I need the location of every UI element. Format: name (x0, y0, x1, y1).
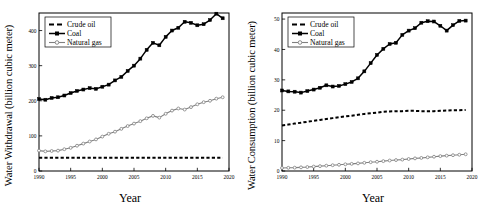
data-point-marker (369, 62, 372, 65)
data-point-marker (114, 79, 117, 82)
data-point-marker (120, 75, 123, 78)
line-chart-right: 199019952000200520102015202001020304050C… (261, 0, 485, 211)
data-point-marker (82, 88, 85, 91)
data-point-marker (388, 159, 391, 162)
data-point-marker (38, 149, 41, 152)
data-point-marker (293, 90, 296, 93)
y-tick-label: 0 (34, 168, 37, 174)
data-point-marker (177, 107, 180, 110)
data-point-marker (82, 142, 85, 145)
data-point-marker (420, 156, 423, 159)
data-point-marker (357, 162, 360, 165)
data-point-marker (312, 88, 315, 91)
data-point-marker (221, 96, 224, 99)
data-point-marker (331, 85, 334, 88)
data-point-marker (382, 47, 385, 50)
data-point-marker (293, 166, 296, 169)
data-point-marker (57, 96, 60, 99)
data-point-marker (445, 29, 448, 32)
legend-label: Natural gas (67, 38, 102, 47)
data-point-marker (50, 96, 53, 99)
series-line-natural-gas (39, 97, 223, 151)
data-point-marker (177, 26, 180, 29)
data-point-marker (107, 83, 110, 86)
data-point-marker (407, 29, 410, 32)
data-point-marker (139, 57, 142, 60)
data-point-marker (439, 155, 442, 158)
data-point-marker (338, 84, 341, 87)
data-point-marker (215, 97, 218, 100)
data-point-marker (44, 150, 47, 153)
x-axis-title-right: Year (261, 191, 485, 211)
data-point-marker (120, 127, 123, 130)
x-tick-label: 2020 (224, 174, 235, 180)
data-point-marker (350, 80, 353, 83)
data-point-marker (300, 91, 303, 94)
legend-label: Crude oil (67, 20, 95, 29)
data-point-marker (439, 24, 442, 27)
data-point-marker (114, 130, 117, 133)
data-point-marker (126, 125, 129, 128)
y-axis-title-left: Water Withdrawal (billion cubic meter) (0, 0, 18, 211)
data-point-marker (133, 64, 136, 67)
legend-label: Coal (67, 29, 81, 38)
y-tick-label: 300 (28, 63, 36, 69)
x-tick-label: 1995 (65, 174, 76, 180)
legend-label: Crude oil (310, 20, 338, 29)
data-point-marker (202, 23, 205, 26)
data-point-marker (101, 135, 104, 138)
data-point-marker (319, 165, 322, 168)
x-tick-label: 2015 (192, 174, 203, 180)
data-point-marker (414, 27, 417, 30)
data-point-marker (202, 101, 205, 104)
data-point-marker (190, 106, 193, 109)
data-point-marker (133, 122, 136, 125)
data-point-marker (63, 148, 66, 151)
data-point-marker (38, 98, 41, 101)
data-point-marker (433, 155, 436, 158)
data-point-marker (69, 146, 72, 149)
data-point-marker (145, 117, 148, 120)
data-point-marker (209, 99, 212, 102)
y-tick-label: 400 (28, 28, 36, 34)
y-tick-label: 30 (274, 77, 280, 83)
data-point-marker (44, 98, 47, 101)
y-tick-label: 50 (274, 16, 280, 22)
data-point-marker (369, 161, 372, 164)
chart-panel-water-withdrawal: Water Withdrawal (billion cubic meter) 1… (0, 0, 242, 211)
x-tick-label: 2015 (435, 174, 446, 180)
legend-label: Coal (310, 29, 324, 38)
data-point-marker (139, 120, 142, 123)
data-point-marker (363, 161, 366, 164)
data-point-marker (306, 166, 309, 169)
data-point-marker (190, 21, 193, 24)
plot-area-right: 199019952000200520102015202001020304050C… (261, 0, 485, 211)
data-point-marker (63, 94, 66, 97)
data-point-marker (414, 157, 417, 160)
x-tick-label: 2000 (340, 174, 351, 180)
y-tick-label: 200 (28, 98, 36, 104)
line-chart-left: 1990199520002005201020152020010020030040… (18, 0, 242, 211)
legend: Crude oilCoalNatural gas (45, 17, 111, 47)
data-point-marker (281, 89, 284, 92)
data-point-marker (88, 140, 91, 143)
data-point-marker (95, 138, 98, 141)
chart-panel-water-consumption: Water Consumption (billion cubic meter) … (243, 0, 485, 211)
legend-marker (298, 32, 302, 36)
data-point-marker (306, 90, 309, 93)
legend-label: Natural gas (310, 38, 345, 47)
data-point-marker (69, 92, 72, 95)
data-point-marker (76, 144, 79, 147)
data-point-marker (171, 29, 174, 32)
data-point-marker (445, 154, 448, 157)
data-point-marker (57, 149, 60, 152)
data-point-marker (287, 90, 290, 93)
data-point-marker (183, 108, 186, 111)
data-point-marker (158, 116, 161, 119)
data-point-marker (209, 19, 212, 22)
data-point-marker (164, 35, 167, 38)
x-tick-label: 1990 (277, 174, 288, 180)
x-tick-label: 1995 (308, 174, 319, 180)
data-point-marker (458, 19, 461, 22)
y-tick-label: 20 (274, 107, 280, 113)
